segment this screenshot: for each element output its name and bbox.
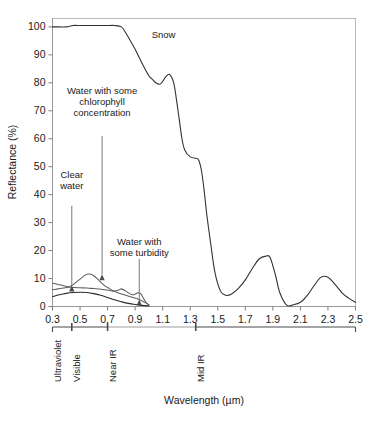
band-bracket-group: UltravioletVisibleNear IRMid IR [52, 323, 356, 382]
x-tick-label: 1.1 [155, 313, 170, 325]
snow-label: Snow [152, 29, 176, 40]
x-tick-label: 1.3 [183, 313, 198, 325]
x-tick-label: 1.9 [266, 313, 281, 325]
y-tick-label: 90 [34, 48, 46, 60]
x-tick-label: 0.7 [100, 313, 115, 325]
x-tick-label: 1.7 [238, 313, 253, 325]
y-axis: 0102030405060708090100 [28, 19, 53, 313]
x-tick-label: 2.3 [321, 313, 336, 325]
curve-snow [53, 25, 356, 306]
y-tick-label: 80 [34, 76, 46, 88]
chlorophyll-label-arrowhead [99, 274, 104, 280]
curve-water-with-some-turbidity [53, 283, 149, 305]
x-tick-label: 0.9 [128, 313, 143, 325]
y-tick-label: 10 [34, 272, 46, 284]
y-tick-label: 20 [34, 244, 46, 256]
x-axis: 0.30.50.70.91.11.31.51.71.92.12.32.5 [45, 307, 363, 325]
turbidity-label: Water withsome turbidity [110, 236, 169, 306]
y-tick-label: 30 [34, 216, 46, 228]
x-tick-label: 2.1 [293, 313, 308, 325]
spectral-reflectance-figure: 0102030405060708090100 0.30.50.70.91.11.… [0, 0, 369, 421]
chlorophyll-label-line: concentration [74, 107, 131, 118]
turbidity-label-line: Water with [117, 236, 162, 247]
x-tick-label: 0.5 [73, 313, 88, 325]
band-label-ultraviolet: Ultraviolet [52, 339, 63, 382]
chlorophyll-label-line: chlorophyll [79, 96, 124, 107]
y-tick-label: 40 [34, 188, 46, 200]
band-label-mid-ir: Mid IR [195, 354, 206, 382]
x-axis-title: Wavelength (µm) [164, 394, 244, 406]
x-tick-label: 0.3 [45, 313, 60, 325]
y-tick-label: 100 [28, 20, 46, 32]
x-tick-label: 2.5 [348, 313, 363, 325]
band-label-visible: Visible [71, 354, 82, 382]
y-tick-label: 70 [34, 104, 46, 116]
y-axis-title: Reflectance (%) [6, 125, 18, 200]
curve-group [53, 25, 356, 306]
band-label-near-ir: Near IR [107, 349, 118, 382]
clear-water-label-line: water [59, 180, 83, 191]
annotation-group: SnowWater with somechlorophyllconcentrat… [59, 29, 175, 305]
y-tick-label: 0 [40, 300, 46, 312]
clear-water-label: Clearwater [59, 169, 83, 292]
chlorophyll-label-line: Water with some [67, 85, 137, 96]
y-tick-label: 60 [34, 132, 46, 144]
turbidity-label-line: some turbidity [110, 247, 169, 258]
clear-water-label-line: Clear [60, 169, 83, 180]
snow-label-line: Snow [152, 29, 176, 40]
x-tick-label: 1.5 [210, 313, 225, 325]
reflectance-chart: 0102030405060708090100 0.30.50.70.91.11.… [0, 0, 369, 421]
chart-frame [53, 19, 356, 307]
y-tick-label: 50 [34, 160, 46, 172]
